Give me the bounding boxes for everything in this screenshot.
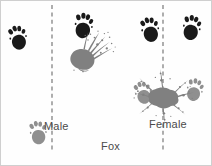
fox-scent-marking-figure: Male Female Fox <box>0 0 212 166</box>
label-female: Female <box>149 119 187 130</box>
label-male: Male <box>44 121 69 132</box>
label-fox: Fox <box>101 141 120 152</box>
